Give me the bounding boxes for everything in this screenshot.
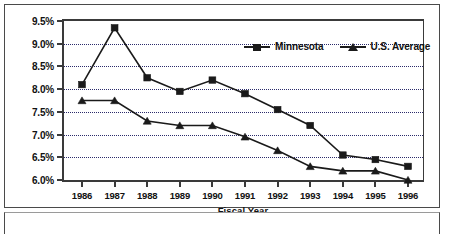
gridline bbox=[64, 135, 423, 136]
data-point-triangle bbox=[208, 122, 216, 129]
data-point-square bbox=[242, 90, 249, 96]
data-point-triangle bbox=[78, 97, 86, 104]
data-point-square bbox=[209, 77, 216, 83]
x-axis-label: 1996 bbox=[398, 190, 418, 201]
y-tick-mark bbox=[57, 20, 63, 22]
y-tick-mark bbox=[57, 179, 63, 181]
x-tick-mark bbox=[309, 181, 311, 187]
figure-bottom-strip bbox=[4, 212, 440, 234]
data-point-triangle bbox=[339, 167, 347, 174]
data-point-triangle bbox=[371, 167, 379, 174]
x-tick-mark bbox=[81, 181, 83, 187]
gridline bbox=[64, 89, 423, 90]
x-axis-label: 1986 bbox=[72, 190, 92, 201]
plot-area: 6.0%6.5%7.0%7.5%8.0%8.5%9.0%9.5% 1986198… bbox=[62, 19, 424, 182]
x-tick-mark bbox=[146, 181, 148, 187]
y-axis-label: 7.0% bbox=[32, 129, 54, 140]
square-marker-icon bbox=[244, 42, 270, 52]
y-tick-mark bbox=[57, 111, 63, 113]
gridline bbox=[64, 112, 423, 113]
data-point-triangle bbox=[143, 117, 151, 124]
x-tick-mark bbox=[211, 181, 213, 187]
y-tick-mark bbox=[57, 88, 63, 90]
data-point-square bbox=[111, 25, 118, 31]
data-point-triangle bbox=[306, 163, 314, 170]
data-point-triangle bbox=[111, 97, 119, 104]
data-point-square bbox=[144, 75, 151, 81]
legend-label-minnesota: Minnesota bbox=[275, 41, 324, 52]
gridline bbox=[64, 157, 423, 158]
x-tick-mark bbox=[374, 181, 376, 187]
x-axis-label: 1990 bbox=[202, 190, 222, 201]
y-tick-mark bbox=[57, 156, 63, 158]
x-tick-mark bbox=[277, 181, 279, 187]
x-tick-mark bbox=[179, 181, 181, 187]
legend-label-us-average: U.S. Average bbox=[371, 41, 431, 52]
y-axis-label: 8.0% bbox=[32, 84, 54, 95]
gridline bbox=[64, 66, 423, 67]
data-point-square bbox=[405, 163, 412, 169]
x-axis-label: 1987 bbox=[104, 190, 124, 201]
plot-border-top bbox=[62, 19, 424, 21]
y-axis-label: 8.5% bbox=[32, 61, 54, 72]
x-axis-label: 1989 bbox=[170, 190, 190, 201]
y-tick-mark bbox=[57, 43, 63, 45]
data-point-square bbox=[79, 81, 86, 87]
y-axis-label: 7.5% bbox=[32, 106, 54, 117]
y-axis-label: 6.5% bbox=[32, 152, 54, 163]
x-axis-label: 1994 bbox=[333, 190, 353, 201]
data-point-square bbox=[307, 122, 314, 128]
x-tick-mark bbox=[407, 181, 409, 187]
y-tick-mark bbox=[57, 134, 63, 136]
chart-legend: Minnesota U.S. Average bbox=[240, 39, 434, 54]
data-point-triangle bbox=[176, 122, 184, 129]
y-axis-label: 6.0% bbox=[32, 175, 54, 186]
x-axis-label: 1995 bbox=[365, 190, 385, 201]
triangle-marker-icon bbox=[340, 42, 366, 52]
x-axis-label: 1988 bbox=[137, 190, 157, 201]
y-axis-label: 9.0% bbox=[32, 38, 54, 49]
x-tick-mark bbox=[114, 181, 116, 187]
x-axis-label: 1992 bbox=[267, 190, 287, 201]
y-axis-label: 9.5% bbox=[32, 16, 54, 27]
chart-figure: 6.0%6.5%7.0%7.5%8.0%8.5%9.0%9.5% 1986198… bbox=[0, 0, 451, 236]
plot-axis-x-line bbox=[62, 180, 424, 182]
data-point-triangle bbox=[274, 147, 282, 154]
x-tick-mark bbox=[244, 181, 246, 187]
x-axis-label: 1993 bbox=[300, 190, 320, 201]
x-axis-label: 1991 bbox=[235, 190, 255, 201]
legend-entry-us-average: U.S. Average bbox=[340, 41, 431, 52]
x-tick-mark bbox=[342, 181, 344, 187]
legend-entry-minnesota: Minnesota bbox=[244, 41, 324, 52]
y-tick-mark bbox=[57, 65, 63, 67]
